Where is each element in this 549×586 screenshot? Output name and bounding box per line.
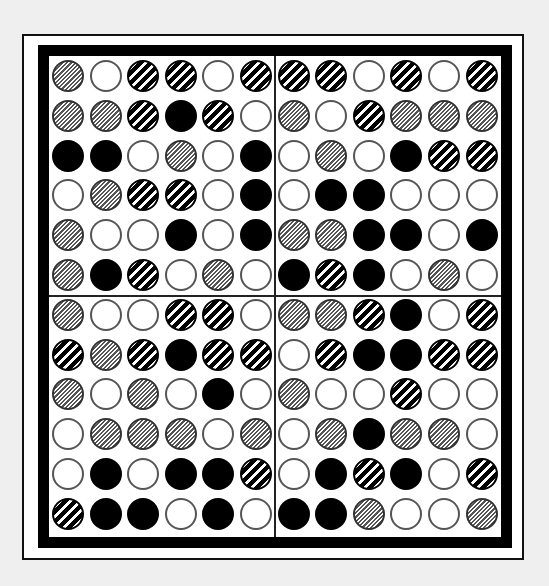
white-circle-icon (428, 179, 460, 211)
white-circle-icon (428, 458, 460, 490)
black-circle-icon (353, 418, 385, 450)
white-circle-icon (52, 179, 84, 211)
black-circle-icon (165, 100, 197, 132)
fine-hatched-circle-icon (390, 100, 422, 132)
white-circle-icon (240, 259, 272, 291)
fine-hatched-circle-icon (165, 418, 197, 450)
white-circle-icon (278, 339, 310, 371)
white-circle-icon (466, 418, 498, 450)
thick-striped-circle-icon (278, 60, 310, 92)
thick-striped-circle-icon (240, 339, 272, 371)
white-circle-icon (278, 140, 310, 172)
white-circle-icon (127, 299, 159, 331)
puzzle-board (49, 56, 501, 537)
fine-hatched-circle-icon (90, 179, 122, 211)
thick-striped-circle-icon (466, 60, 498, 92)
white-circle-icon (466, 179, 498, 211)
white-circle-icon (278, 458, 310, 490)
black-circle-icon (90, 259, 122, 291)
black-circle-icon (240, 179, 272, 211)
fine-hatched-circle-icon (315, 299, 347, 331)
white-circle-icon (240, 498, 272, 530)
white-circle-icon (466, 259, 498, 291)
black-circle-icon (315, 458, 347, 490)
fine-hatched-circle-icon (428, 418, 460, 450)
black-circle-icon (390, 219, 422, 251)
thick-striped-circle-icon (466, 458, 498, 490)
fine-hatched-circle-icon (315, 140, 347, 172)
white-circle-icon (90, 299, 122, 331)
fine-hatched-circle-icon (240, 418, 272, 450)
fine-hatched-circle-icon (90, 418, 122, 450)
black-circle-icon (90, 458, 122, 490)
white-circle-icon (202, 60, 234, 92)
white-circle-icon (90, 60, 122, 92)
thick-striped-circle-icon (315, 60, 347, 92)
fine-hatched-circle-icon (353, 498, 385, 530)
thick-striped-circle-icon (466, 299, 498, 331)
thick-striped-circle-icon (52, 339, 84, 371)
fine-hatched-circle-icon (52, 219, 84, 251)
white-circle-icon (165, 259, 197, 291)
fine-hatched-circle-icon (127, 378, 159, 410)
black-circle-icon (202, 498, 234, 530)
black-circle-icon (240, 219, 272, 251)
white-circle-icon (466, 378, 498, 410)
fine-hatched-circle-icon (278, 100, 310, 132)
fine-hatched-circle-icon (52, 100, 84, 132)
white-circle-icon (127, 458, 159, 490)
thick-striped-circle-icon (202, 100, 234, 132)
white-circle-icon (127, 140, 159, 172)
white-circle-icon (202, 179, 234, 211)
fine-hatched-circle-icon (466, 100, 498, 132)
black-circle-icon (278, 498, 310, 530)
fine-hatched-circle-icon (52, 378, 84, 410)
black-circle-icon (466, 219, 498, 251)
thick-striped-circle-icon (240, 60, 272, 92)
thick-striped-circle-icon (466, 140, 498, 172)
black-circle-icon (165, 458, 197, 490)
black-circle-icon (127, 498, 159, 530)
fine-hatched-circle-icon (390, 418, 422, 450)
black-circle-icon (202, 378, 234, 410)
black-circle-icon (165, 339, 197, 371)
thick-striped-circle-icon (466, 339, 498, 371)
white-circle-icon (127, 219, 159, 251)
thick-striped-circle-icon (390, 60, 422, 92)
fine-hatched-circle-icon (315, 418, 347, 450)
thick-striped-circle-icon (428, 339, 460, 371)
black-circle-icon (52, 140, 84, 172)
white-circle-icon (165, 378, 197, 410)
fine-hatched-circle-icon (428, 259, 460, 291)
white-circle-icon (52, 458, 84, 490)
thick-striped-circle-icon (240, 458, 272, 490)
fine-hatched-circle-icon (52, 60, 84, 92)
fine-hatched-circle-icon (278, 299, 310, 331)
thick-striped-circle-icon (127, 179, 159, 211)
fine-hatched-circle-icon (90, 100, 122, 132)
thick-striped-circle-icon (165, 179, 197, 211)
white-circle-icon (353, 378, 385, 410)
white-circle-icon (428, 378, 460, 410)
white-circle-icon (315, 100, 347, 132)
fine-hatched-circle-icon (52, 259, 84, 291)
thick-striped-circle-icon (127, 339, 159, 371)
white-circle-icon (390, 179, 422, 211)
black-circle-icon (390, 339, 422, 371)
fine-hatched-circle-icon (315, 219, 347, 251)
thick-striped-circle-icon (353, 100, 385, 132)
white-circle-icon (428, 299, 460, 331)
fine-hatched-circle-icon (278, 219, 310, 251)
white-circle-icon (390, 498, 422, 530)
white-circle-icon (202, 140, 234, 172)
thick-striped-circle-icon (165, 299, 197, 331)
thick-striped-circle-icon (52, 498, 84, 530)
horizontal-divider (49, 295, 501, 297)
fine-hatched-circle-icon (127, 418, 159, 450)
thick-striped-circle-icon (353, 299, 385, 331)
fine-hatched-circle-icon (52, 299, 84, 331)
fine-hatched-circle-icon (428, 100, 460, 132)
fine-hatched-circle-icon (165, 140, 197, 172)
black-circle-icon (353, 219, 385, 251)
black-circle-icon (278, 259, 310, 291)
